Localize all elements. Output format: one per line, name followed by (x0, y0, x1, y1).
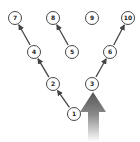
edge-arrow-3-to-6 (96, 59, 106, 77)
edge-arrow-2-to-4 (38, 59, 49, 77)
edges (19, 25, 124, 107)
edge-arrow-5-to-8 (57, 25, 68, 45)
node-label: 9 (90, 14, 94, 21)
node-3: 3 (86, 78, 99, 91)
edge-arrow-4-to-7 (19, 25, 30, 45)
node-label: 2 (51, 80, 55, 87)
node-7: 7 (9, 12, 22, 25)
edge-arrow-6-to-10 (114, 25, 125, 45)
node-8: 8 (47, 12, 60, 25)
node-label: 5 (70, 48, 74, 55)
big-upward-arrow-icon (80, 92, 106, 142)
node-5: 5 (66, 46, 79, 59)
node-label: 10 (124, 14, 132, 21)
node-label: 8 (51, 14, 55, 21)
node-1: 1 (68, 108, 81, 121)
node-9: 9 (86, 12, 99, 25)
node-label: 6 (108, 48, 112, 55)
node-label: 3 (90, 80, 94, 87)
node-2: 2 (47, 78, 60, 91)
nodes: 12345678910 (9, 12, 135, 121)
node-label: 7 (13, 14, 17, 21)
node-6: 6 (104, 46, 117, 59)
edge-arrow-1-to-2 (58, 91, 70, 108)
node-label: 1 (72, 110, 76, 117)
tree-diagram: 12345678910 (0, 0, 140, 142)
node-label: 4 (32, 48, 36, 55)
node-4: 4 (28, 46, 41, 59)
node-10: 10 (122, 12, 135, 25)
